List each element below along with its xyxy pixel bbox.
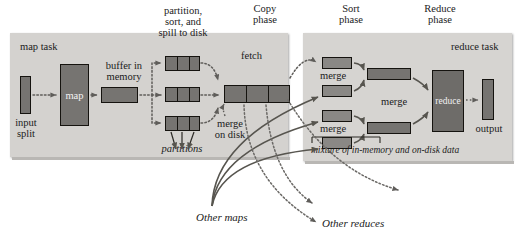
arrow-chunk1-to-stream1 [354,63,364,70]
arrows-overlay [0,0,520,240]
footnote-brace [312,137,380,143]
mapreduce-shuffle-diagram: Copy phase Sort phase Reduce phase map t… [0,0,520,240]
arrow-stream1-to-reduce [413,78,428,90]
arrow-partition-ptr-3 [188,132,194,149]
arrow-buffer-to-spill3 [152,95,161,123]
arrow-merge-on-disk-ptr [223,104,225,116]
arrow-buffer-to-spill1 [152,63,161,95]
arrow-chunk3-to-stream2 [354,116,364,124]
arrow-merged-to-otherreduces-3 [288,100,398,190]
arrow-fetch-to-chunk1 [290,60,316,78]
arrow-stream2-to-reduce [413,112,428,124]
arrow-spill1-to-merged [201,63,218,80]
arrow-chunk4-to-stream2 [354,134,364,143]
arrow-partition-ptr-1 [171,132,176,149]
arrow-othermaps-to-chunk4 [212,149,318,206]
arrow-spill3-to-merged [201,108,218,123]
arrow-othermaps-to-chunk3 [212,122,318,206]
arrow-chunk2-to-stream1 [354,80,364,91]
